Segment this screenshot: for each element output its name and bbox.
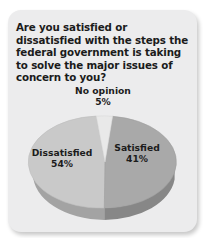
pie-label-dissatisfied-name: Dissatisfied <box>21 147 103 158</box>
pie-label-no-opinion-value: 5% <box>55 96 151 107</box>
pie-chart: No opinion 5% Satisfied 41% Dissatisfied… <box>8 68 197 232</box>
screenshot-root: Are you satisfied or dissatisfied with t… <box>0 0 207 238</box>
survey-card: Are you satisfied or dissatisfied with t… <box>8 10 197 232</box>
pie-label-satisfied: Satisfied 41% <box>106 142 168 164</box>
pie-label-no-opinion-name: No opinion <box>55 85 151 96</box>
pie-label-satisfied-name: Satisfied <box>106 142 168 153</box>
pie-label-dissatisfied-value: 54% <box>21 158 103 169</box>
pie-label-satisfied-value: 41% <box>106 153 168 164</box>
pie-label-dissatisfied: Dissatisfied 54% <box>21 147 103 169</box>
pie-label-no-opinion: No opinion 5% <box>55 85 151 107</box>
